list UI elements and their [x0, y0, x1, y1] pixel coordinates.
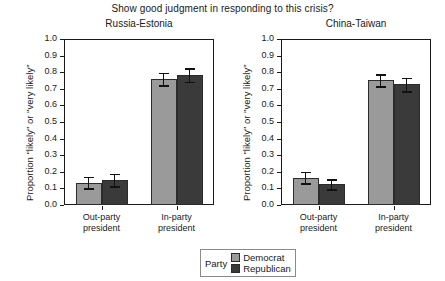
y-axis-tick-label: 1.0 — [38, 34, 57, 43]
error-bar-cap-upper — [84, 177, 94, 179]
y-axis-tick — [60, 172, 64, 173]
legend-swatch-democrat — [231, 253, 240, 262]
y-axis-tick-label: 0.1 — [38, 183, 57, 192]
error-bar-line — [380, 74, 382, 86]
error-bar-cap-upper — [110, 174, 120, 176]
x-label-line1: Out-party — [62, 212, 142, 223]
error-bar-cap-lower — [84, 188, 94, 190]
error-bar-cap-upper — [376, 74, 386, 76]
error-bar-line — [114, 174, 116, 187]
y-axis-label: Proportion "likely" or "very likely" — [24, 64, 35, 201]
legend-label-democrat: Democrat — [243, 253, 284, 263]
error-bar-line — [163, 73, 165, 86]
y-axis-tick-label: 0.0 — [38, 200, 57, 209]
y-axis-tick-label: 0.9 — [38, 51, 57, 60]
y-axis-tick — [277, 89, 281, 90]
error-bar-cap-upper — [402, 78, 412, 80]
y-axis-tick — [60, 72, 64, 73]
y-axis-tick-label: 0.2 — [38, 167, 57, 176]
y-axis-tick-label: 0.9 — [255, 51, 274, 60]
x-label-line2: president — [137, 223, 217, 234]
y-axis-tick — [277, 72, 281, 73]
x-axis-tick — [319, 206, 320, 210]
y-axis-tick — [60, 155, 64, 156]
x-label-line2: president — [354, 223, 434, 234]
x-label-line1: In-party — [354, 212, 434, 223]
legend-title: Party — [205, 258, 227, 269]
y-axis-tick-label: 0.7 — [38, 84, 57, 93]
y-axis-tick — [277, 155, 281, 156]
y-axis-tick-label: 0.8 — [255, 67, 274, 76]
x-label-line2: president — [279, 223, 359, 234]
bar-republican-in-party — [177, 75, 203, 205]
error-bar-line — [305, 172, 307, 184]
bar-democrat-in-party — [368, 80, 394, 205]
bar-democrat-in-party — [151, 79, 177, 205]
y-axis-tick — [277, 105, 281, 106]
x-axis-category-label: In-partypresident — [354, 212, 434, 234]
legend: Party DemocratRepublican — [200, 249, 296, 277]
panel-title-1: Russia-Estonia — [64, 18, 214, 29]
y-axis-tick-label: 0.5 — [38, 117, 57, 126]
x-axis-category-label: In-partypresident — [137, 212, 217, 234]
error-bar-cap-lower — [376, 86, 386, 88]
y-axis-tick — [277, 205, 281, 206]
y-axis-tick — [60, 139, 64, 140]
error-bar-line — [406, 78, 408, 92]
error-bar-cap-lower — [327, 189, 337, 191]
y-axis-label: Proportion "likely" or "very likely" — [241, 64, 252, 201]
y-axis-tick — [277, 188, 281, 189]
legend-label-republican: Republican — [243, 264, 291, 274]
y-axis-tick — [60, 89, 64, 90]
error-bar-cap-lower — [110, 186, 120, 188]
error-bar-line — [189, 68, 191, 81]
x-axis-tick — [394, 206, 395, 210]
y-axis-tick — [277, 56, 281, 57]
x-label-line2: president — [62, 223, 142, 234]
y-axis-tick — [60, 105, 64, 106]
y-axis-tick-label: 0.6 — [255, 100, 274, 109]
y-axis-tick-label: 0.4 — [255, 134, 274, 143]
x-label-line1: In-party — [137, 212, 217, 223]
y-axis-tick — [277, 39, 281, 40]
legend-item-democrat: Democrat — [231, 253, 291, 263]
error-bar-cap-lower — [402, 91, 412, 93]
legend-swatch-republican — [231, 264, 240, 273]
y-axis-tick-label: 0.5 — [255, 117, 274, 126]
x-axis-category-label: Out-partypresident — [62, 212, 142, 234]
y-axis-tick-label: 1.0 — [255, 34, 274, 43]
panel-title-2: China-Taiwan — [281, 18, 431, 29]
error-bar-cap-upper — [301, 172, 311, 174]
y-axis-tick-label: 0.3 — [38, 150, 57, 159]
x-label-line1: Out-party — [279, 212, 359, 223]
y-axis-tick — [60, 122, 64, 123]
error-bar-cap-upper — [185, 68, 195, 70]
figure-canvas: Show good judgment in responding to this… — [0, 0, 445, 281]
y-axis-tick-label: 0.4 — [38, 134, 57, 143]
error-bar-cap-upper — [327, 179, 337, 181]
error-bar-cap-lower — [159, 85, 169, 87]
x-axis-tick — [177, 206, 178, 210]
error-bar-cap-lower — [185, 82, 195, 84]
y-axis-tick-label: 0.1 — [255, 183, 274, 192]
y-axis-tick-label: 0.8 — [38, 67, 57, 76]
x-axis-tick — [102, 206, 103, 210]
y-axis-tick — [60, 205, 64, 206]
y-axis-tick — [60, 56, 64, 57]
y-axis-tick-label: 0.3 — [255, 150, 274, 159]
y-axis-tick — [277, 122, 281, 123]
y-axis-tick — [277, 139, 281, 140]
error-bar-cap-lower — [301, 183, 311, 185]
y-axis-tick-label: 0.0 — [255, 200, 274, 209]
y-axis-tick — [277, 172, 281, 173]
error-bar-line — [88, 177, 90, 189]
y-axis-tick-label: 0.6 — [38, 100, 57, 109]
y-axis-tick — [60, 39, 64, 40]
figure-title: Show good judgment in responding to this… — [0, 3, 445, 14]
y-axis-tick-label: 0.7 — [255, 84, 274, 93]
legend-item-republican: Republican — [231, 264, 291, 274]
bar-republican-in-party — [394, 84, 420, 205]
y-axis-tick — [60, 188, 64, 189]
y-axis-tick-label: 0.2 — [255, 167, 274, 176]
x-axis-category-label: Out-partypresident — [279, 212, 359, 234]
